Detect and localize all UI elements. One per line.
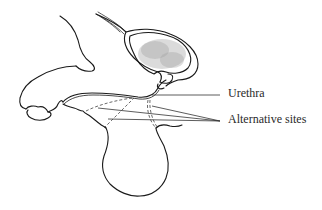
urethra-tube (63, 80, 166, 102)
alt-route-2 (104, 98, 134, 128)
scrotal-junction (63, 104, 106, 128)
anatomical-diagram (0, 0, 322, 210)
shaft-outline (20, 66, 76, 109)
alt-leader-line-3 (152, 106, 220, 121)
pelvic-outline (60, 16, 94, 71)
stippled-mass (138, 39, 186, 69)
glans-outline (26, 106, 51, 120)
urethra-label: Urethra (228, 87, 265, 99)
alternative-sites-label: Alternative sites (228, 113, 306, 125)
scrotum-outline (103, 128, 169, 196)
